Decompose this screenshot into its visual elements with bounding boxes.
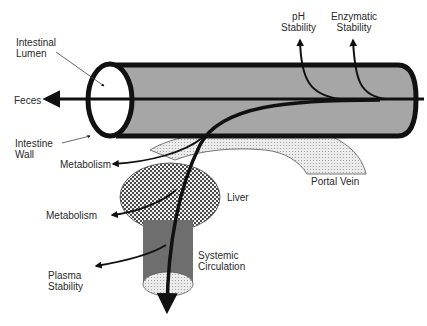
label-intestine-wall: Intestine Wall (15, 138, 53, 160)
label-line: Wall (15, 149, 53, 160)
label-metabolism-liver: Metabolism (46, 210, 97, 221)
label-line: Circulation (198, 261, 245, 272)
label-ph-stability: pH Stability (281, 11, 316, 33)
label-liver: Liver (227, 192, 249, 203)
label-line: Systemic (198, 250, 245, 261)
label-line: Enzymatic (331, 11, 377, 22)
label-line: Stability (331, 22, 377, 33)
label-line: pH (281, 11, 316, 22)
label-line: Lumen (16, 48, 56, 59)
wall-pointer (62, 136, 90, 143)
label-enzymatic-stability: Enzymatic Stability (331, 11, 377, 33)
label-line: Intestinal (16, 37, 56, 48)
label-line: Stability (281, 22, 316, 33)
label-systemic-circulation: Systemic Circulation (198, 250, 245, 272)
label-line: Plasma (48, 270, 83, 281)
label-intestinal-lumen: Intestinal Lumen (16, 37, 56, 59)
label-feces: Feces (14, 95, 41, 106)
label-line: Intestine (15, 138, 53, 149)
label-metabolism-gut: Metabolism (60, 159, 111, 170)
label-plasma-stability: Plasma Stability (48, 270, 83, 292)
label-portal-vein: Portal Vein (311, 176, 359, 187)
label-line: Stability (48, 281, 83, 292)
